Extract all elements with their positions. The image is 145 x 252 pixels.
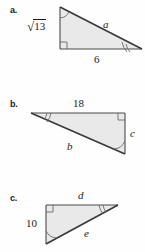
radical-radicand: 13 — [33, 19, 46, 32]
triangle-a-horizontal-leg-label: 6 — [94, 53, 100, 65]
triangle-b-hypotenuse-label: b — [67, 140, 73, 152]
part-label-b: b. — [10, 99, 18, 109]
part-label-a: a. — [10, 5, 17, 15]
triangle-a-hypotenuse-label: a — [103, 18, 109, 30]
triangle-a-shape — [60, 7, 142, 52]
triangle-b-vertical-leg-label: c — [130, 127, 135, 139]
triangle-c-hypotenuse-label: e — [84, 227, 89, 239]
triangle-b-top-leg-label: 18 — [73, 97, 84, 109]
part-label-c: c. — [10, 193, 17, 203]
triangle-b-shape — [31, 113, 125, 154]
triangle-c-vertical-leg-label: 10 — [26, 217, 37, 229]
triangle-c-top-leg-label: d — [78, 189, 84, 201]
triangles-svg — [0, 0, 145, 252]
figure-container: a. √13 a 6 b. 18 b c c. d 10 e — [0, 0, 145, 252]
triangle-a-vertical-leg-label: √13 — [27, 19, 46, 35]
triangle-c-shape — [46, 205, 118, 244]
